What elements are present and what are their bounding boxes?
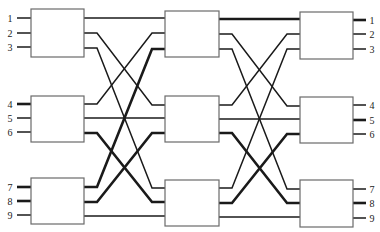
output-stubs [353, 20, 366, 218]
stage3-switch-3 [300, 180, 353, 227]
input-stubs [17, 18, 31, 215]
input-labels: 1 2 3 4 5 6 7 8 9 [8, 13, 13, 221]
stage2-switch-1 [165, 11, 219, 57]
stage3-switches [300, 12, 353, 227]
stage1-switch-3 [31, 178, 84, 224]
input-label-2: 2 [8, 28, 13, 39]
stage3-switch-1 [300, 12, 353, 59]
input-label-1: 1 [8, 13, 13, 24]
input-label-3: 3 [8, 42, 13, 53]
output-label-3: 3 [370, 44, 375, 55]
stage2-switch-3 [165, 180, 219, 226]
input-label-6: 6 [8, 127, 13, 138]
stage2-to-stage3-wires [219, 19, 300, 217]
stage1-to-stage2-wires [84, 18, 165, 216]
output-label-6: 6 [370, 129, 375, 140]
input-label-9: 9 [8, 210, 13, 221]
stage3-switch-2 [300, 97, 353, 143]
stage1-switch-1 [31, 9, 84, 57]
stage1-switch-2 [31, 96, 84, 142]
input-label-7: 7 [8, 182, 13, 193]
stage1-switches [31, 9, 84, 224]
input-label-8: 8 [8, 196, 13, 207]
stage2-switches [165, 11, 219, 226]
output-labels: 1 2 3 4 5 6 7 8 9 [370, 15, 375, 224]
output-label-9: 9 [370, 213, 375, 224]
output-label-1: 1 [370, 15, 375, 26]
stage2-switch-2 [165, 96, 219, 142]
output-label-4: 4 [370, 100, 375, 111]
input-label-4: 4 [8, 99, 13, 110]
output-label-5: 5 [370, 115, 375, 126]
output-label-2: 2 [370, 29, 375, 40]
output-label-7: 7 [370, 184, 375, 195]
switching-network-diagram: 1 2 3 4 5 6 7 8 9 [0, 0, 380, 232]
output-label-8: 8 [370, 198, 375, 209]
input-label-5: 5 [8, 113, 13, 124]
